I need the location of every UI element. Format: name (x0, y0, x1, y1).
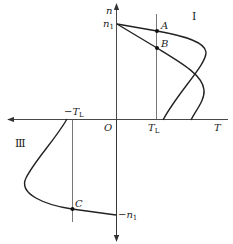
characteristic-curve-c (25, 119, 116, 215)
origin-label: O (104, 122, 112, 133)
point-c-label: C (75, 198, 83, 209)
point-b-label: B (160, 38, 168, 49)
neg-tl-label: −TL (64, 106, 84, 119)
neg-n1-label: −n1 (118, 209, 137, 222)
point-c-marker (71, 207, 75, 211)
speed-axis-label: n (106, 5, 112, 16)
torque-speed-diagram: A B C n T O n1 −n1 TL −TL I Ⅲ (0, 0, 233, 244)
torque-axis-label: T (214, 122, 222, 133)
tl-label: TL (148, 122, 160, 135)
point-a-marker (155, 29, 159, 33)
quadrant-iii-label: Ⅲ (15, 137, 26, 150)
quadrant-i-label: I (192, 10, 196, 23)
point-a-label: A (160, 20, 168, 31)
n1-label: n1 (103, 18, 114, 31)
point-b-marker (155, 46, 159, 50)
